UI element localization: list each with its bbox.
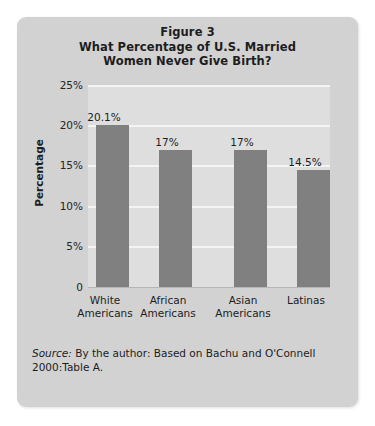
source-note-text: By the author: Based on Bachu and O'Conn… <box>32 347 315 373</box>
x-category-label-latinas-line-1: Latinas <box>264 294 348 307</box>
y-tick-15: 15% <box>37 159 83 171</box>
x-category-label-african-americans: African Americans <box>126 294 210 320</box>
source-note-keyword: Source: <box>32 347 72 359</box>
bar-value-label-african-americans: 17% <box>137 136 197 148</box>
x-category-label-latinas: Latinas <box>264 294 348 307</box>
x-category-label-asian-americans-line-2: Americans <box>201 307 285 320</box>
y-tick-5: 5% <box>37 240 83 252</box>
x-category-label-african-americans-line-2: Americans <box>126 307 210 320</box>
y-tick-10: 10% <box>37 200 83 212</box>
y-tick-0: 0 <box>37 281 83 293</box>
bar-latinas[interactable] <box>297 170 330 287</box>
source-note: Source: By the author: Based on Bachu an… <box>32 346 350 374</box>
bar-asian-americans[interactable] <box>234 150 267 287</box>
bar-value-label-latinas: 14.5% <box>275 156 335 168</box>
gridline-25 <box>88 85 330 87</box>
y-tick-25: 25% <box>37 79 83 91</box>
x-category-label-african-americans-line-1: African <box>126 294 210 307</box>
figure-card: Figure 3 What Percentage of U.S. Married… <box>17 17 358 407</box>
bar-value-label-asian-americans: 17% <box>212 136 272 148</box>
bar-white-americans[interactable] <box>96 125 129 287</box>
bar-value-label-white-americans: 20.1% <box>74 111 134 123</box>
bar-african-americans[interactable] <box>159 150 192 287</box>
x-axis-line <box>88 287 330 288</box>
